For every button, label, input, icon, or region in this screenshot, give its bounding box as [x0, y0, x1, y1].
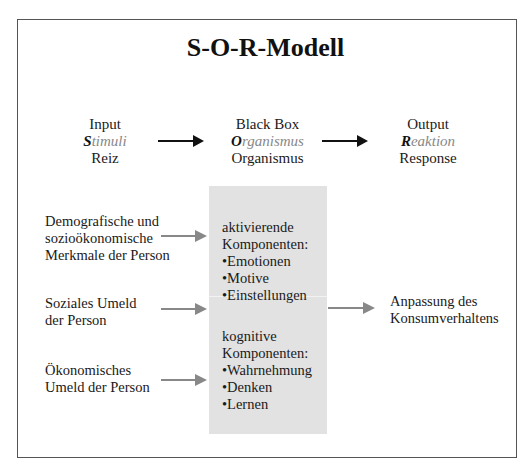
- cognitive-components: kognitive Komponenten: Wahrnehmung Denke…: [222, 328, 312, 413]
- organism-column: Black Box Organismus Organismus: [210, 116, 325, 167]
- stimulus-column: Input Stimuli Reiz: [55, 116, 155, 167]
- activating-components: aktivierende Komponenten: Emotionen Moti…: [222, 219, 308, 304]
- list-item: Emotionen: [222, 253, 308, 270]
- stimulus-accent: Stimuli: [55, 133, 155, 150]
- list-item: Denken: [222, 379, 312, 396]
- arrow-social: [161, 308, 205, 310]
- list-item: Lernen: [222, 396, 312, 413]
- input-economic: ÖkonomischesUmeld der Person: [45, 362, 150, 396]
- response-sub: Response: [373, 150, 483, 167]
- arrow-output: [328, 307, 373, 309]
- list-item: Wahrnehmung: [222, 362, 312, 379]
- arrow-demographic: [161, 235, 205, 237]
- arrow-stimulus-to-organism: [158, 140, 202, 142]
- organism-accent: Organismus: [210, 133, 325, 150]
- stimulus-label: Input: [55, 116, 155, 133]
- diagram-title: S-O-R-Modell: [0, 33, 531, 63]
- organism-sub: Organismus: [210, 150, 325, 167]
- response-label: Output: [373, 116, 483, 133]
- organism-label: Black Box: [210, 116, 325, 133]
- input-social: Soziales Umeldder Person: [45, 295, 136, 329]
- output-behavior: Anpassung desKonsumverhaltens: [390, 293, 499, 327]
- list-item: Einstellungen: [222, 287, 308, 304]
- stimulus-sub: Reiz: [55, 150, 155, 167]
- response-accent: Reaktion: [373, 133, 483, 150]
- input-demographic: Demografische undsozioökonomischeMerkmal…: [45, 213, 170, 264]
- list-item: Motive: [222, 270, 308, 287]
- arrow-organism-to-response: [322, 140, 366, 142]
- response-column: Output Reaktion Response: [373, 116, 483, 167]
- arrow-economic: [161, 379, 205, 381]
